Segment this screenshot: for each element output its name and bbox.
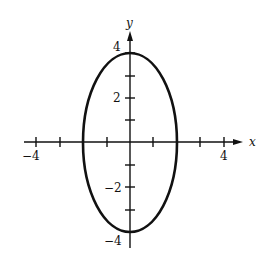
y-tick-label-neg2: −2 bbox=[104, 181, 122, 195]
ellipse-chart: x y −4 4 4 2 −2 −4 bbox=[0, 0, 269, 263]
y-axis-arrow-icon bbox=[127, 31, 133, 41]
y-tick-label-neg4: −4 bbox=[104, 234, 122, 248]
x-axis-label: x bbox=[249, 135, 256, 149]
x-tick-label-neg4: −4 bbox=[22, 149, 40, 163]
x-axis-arrow-icon bbox=[233, 139, 243, 145]
x-tick-label-pos4: 4 bbox=[220, 149, 228, 163]
y-tick-label-pos4: 4 bbox=[113, 40, 121, 54]
y-tick-label-pos2: 2 bbox=[113, 91, 121, 105]
y-axis-label: y bbox=[125, 16, 133, 30]
